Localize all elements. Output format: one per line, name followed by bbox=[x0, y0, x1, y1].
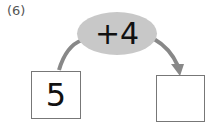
operation-bubble: +4 bbox=[77, 12, 157, 55]
arc-right bbox=[154, 39, 178, 66]
answer-box[interactable] bbox=[156, 75, 205, 122]
operation-text: +4 bbox=[95, 16, 139, 51]
start-box: 5 bbox=[31, 71, 81, 119]
arc-left bbox=[59, 40, 82, 70]
start-value: 5 bbox=[46, 76, 66, 114]
